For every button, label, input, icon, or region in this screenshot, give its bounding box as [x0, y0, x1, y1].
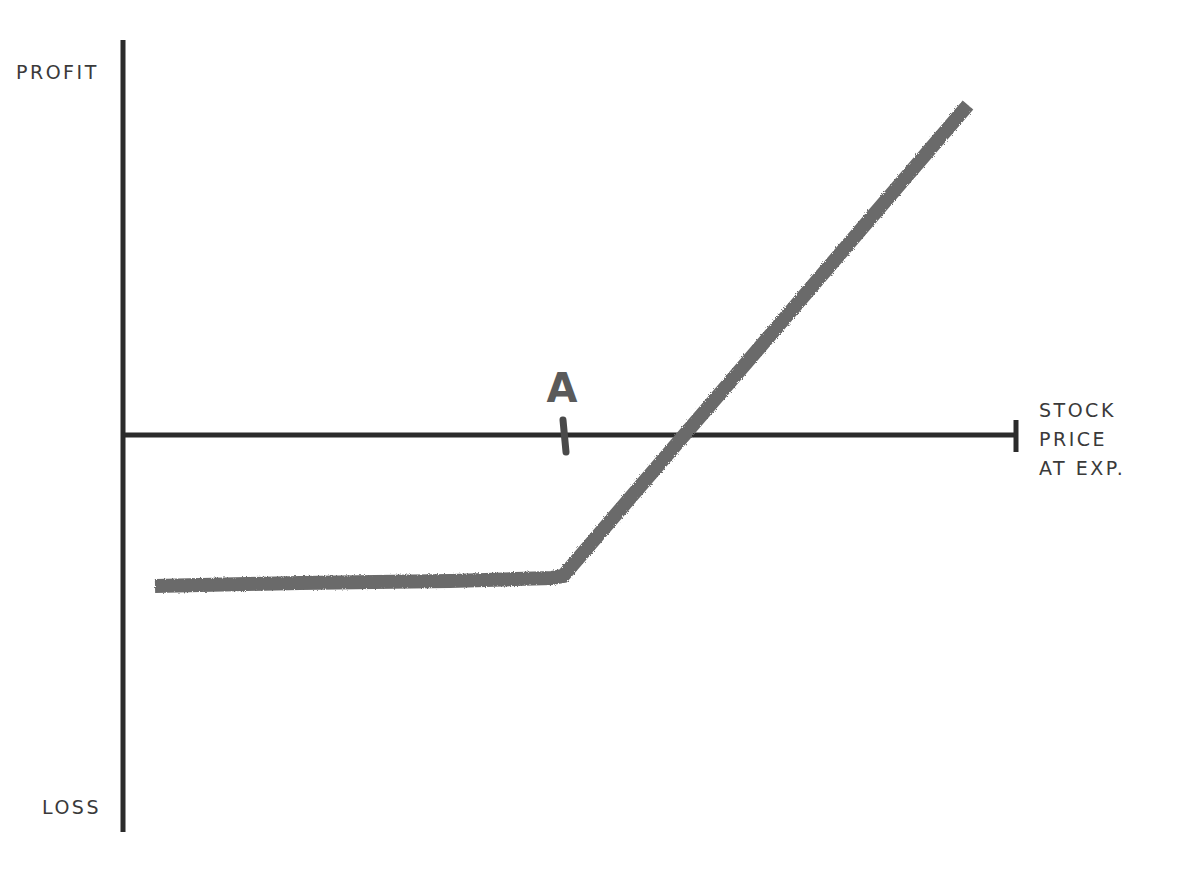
payoff-line — [155, 105, 968, 586]
payoff-chart: A — [0, 0, 1185, 869]
strike-tick — [563, 420, 566, 452]
strike-label: A — [547, 365, 578, 411]
